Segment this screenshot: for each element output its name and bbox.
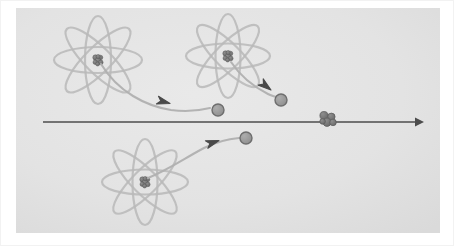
- atom-upper-left-nucleon-6: [96, 62, 100, 66]
- target-nucleus-sphere-3: [330, 119, 337, 126]
- atom-lower-middle-nucleon-5: [143, 177, 147, 181]
- target-nucleus-sphere-4: [320, 119, 326, 125]
- particle-lower-middle: [240, 132, 252, 144]
- figure-canvas: [0, 0, 454, 246]
- atom-lower-middle-nucleon-6: [143, 184, 147, 188]
- atom-upper-left-nucleon-5: [96, 55, 100, 59]
- atom-upper-right-nucleus: [223, 51, 233, 63]
- figure-plate: [16, 8, 440, 233]
- atom-upper-right-nucleon-5: [226, 51, 230, 55]
- scattering-figure: [0, 0, 454, 246]
- particle-upper-right: [275, 94, 287, 106]
- particle-upper-left: [212, 104, 224, 116]
- atom-upper-right-nucleon-6: [226, 58, 230, 62]
